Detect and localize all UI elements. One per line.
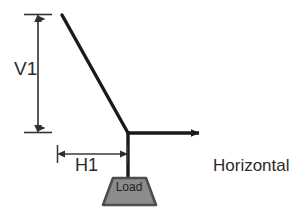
horizontal-force-label-line1: Horizontal	[213, 156, 290, 176]
load-label: Load	[104, 180, 154, 194]
diagonal-member	[62, 15, 128, 133]
vertical-dimension-label: V1	[14, 58, 37, 80]
horizontal-force-label: Horizontal Force	[213, 116, 290, 213]
horizontal-dimension-label: H1	[75, 155, 98, 176]
force-diagram: V1 H1 Horizontal Force Load	[0, 0, 302, 213]
